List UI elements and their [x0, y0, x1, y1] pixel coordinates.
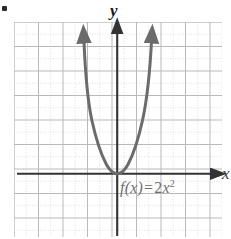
graph-canvas: [0, 0, 231, 239]
y-axis-label: y: [110, 2, 118, 19]
parabola-curve-right: [117, 40, 151, 174]
x-axis-label: x: [222, 165, 230, 182]
function-label-prefix: f(x): [120, 179, 143, 196]
function-label: f(x)=2x2: [120, 180, 175, 196]
function-label-variable: x: [162, 179, 169, 196]
function-label-equals: =: [143, 179, 154, 196]
function-label-exponent: 2: [170, 178, 175, 189]
parabola-figure: y x f(x)=2x2: [0, 0, 231, 239]
